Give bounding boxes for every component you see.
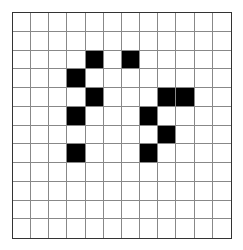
grid-cell (122, 69, 140, 88)
grid-cell (86, 182, 104, 201)
grid-cell-filled (67, 144, 85, 163)
grid-cell (213, 219, 231, 238)
grid-cell (49, 144, 67, 163)
grid-cell (104, 32, 122, 51)
grid-cell (213, 51, 231, 70)
grid-cell (104, 88, 122, 107)
grid-cell (122, 144, 140, 163)
grid-cell (49, 107, 67, 126)
grid-cell (140, 69, 158, 88)
grid-cell (31, 126, 49, 145)
grid-cell (195, 163, 213, 182)
grid-cell-filled (140, 144, 158, 163)
grid-cell (195, 69, 213, 88)
grid-cell (104, 126, 122, 145)
grid-cell (31, 13, 49, 32)
grid-cell (13, 126, 31, 145)
grid-cell (195, 126, 213, 145)
grid-cell (140, 32, 158, 51)
grid-cell (158, 163, 176, 182)
grid-cell-filled (67, 107, 85, 126)
grid-cell (176, 51, 194, 70)
grid-cell (122, 13, 140, 32)
grid-cell (195, 13, 213, 32)
grid-cell (31, 219, 49, 238)
grid-cell (104, 219, 122, 238)
grid-cell (49, 219, 67, 238)
grid-cell (213, 163, 231, 182)
grid-cell (158, 13, 176, 32)
grid-cell (13, 182, 31, 201)
grid-cell (176, 182, 194, 201)
grid-cell-filled (122, 51, 140, 70)
grid-cell (140, 51, 158, 70)
grid-cell (195, 107, 213, 126)
grid-cell (195, 219, 213, 238)
grid-cell (49, 69, 67, 88)
grid-cell (49, 163, 67, 182)
grid-cell (86, 32, 104, 51)
grid-cell (213, 126, 231, 145)
grid-cell (140, 163, 158, 182)
grid-cell (49, 32, 67, 51)
grid-cell (13, 107, 31, 126)
pixel-grid (12, 12, 232, 239)
grid-cell-filled (140, 107, 158, 126)
grid-cell (13, 51, 31, 70)
grid-cell (86, 107, 104, 126)
grid-cell (86, 163, 104, 182)
grid-cell (176, 201, 194, 220)
grid-cell (67, 219, 85, 238)
grid-cell (195, 88, 213, 107)
grid-cell (13, 88, 31, 107)
grid-cell (158, 107, 176, 126)
grid-cell (122, 32, 140, 51)
grid-cell (122, 182, 140, 201)
grid-cell (140, 88, 158, 107)
grid-cell (104, 107, 122, 126)
grid-cell (140, 13, 158, 32)
grid-cell (213, 32, 231, 51)
grid-cell (176, 69, 194, 88)
grid-cell (31, 201, 49, 220)
grid-cell (49, 51, 67, 70)
grid-cell (122, 201, 140, 220)
grid-cell (122, 163, 140, 182)
grid-cell (31, 182, 49, 201)
grid-cell (158, 219, 176, 238)
grid-cell (195, 144, 213, 163)
grid-cell (104, 201, 122, 220)
grid-cell (176, 144, 194, 163)
grid-cell (86, 201, 104, 220)
grid-cell (122, 88, 140, 107)
grid-cell (67, 32, 85, 51)
grid-cell (49, 201, 67, 220)
grid-cell (49, 126, 67, 145)
grid-cell (13, 144, 31, 163)
grid-cell (67, 126, 85, 145)
grid-cell (195, 182, 213, 201)
grid-cell (213, 69, 231, 88)
grid-cell-filled (86, 51, 104, 70)
grid-cell (104, 13, 122, 32)
grid-cell (86, 69, 104, 88)
grid-cell (213, 182, 231, 201)
grid-cell (213, 88, 231, 107)
grid-cell (86, 13, 104, 32)
grid-cell (86, 219, 104, 238)
grid-cell (213, 107, 231, 126)
grid-cell (31, 51, 49, 70)
grid-cell (31, 32, 49, 51)
grid-cell (49, 88, 67, 107)
grid-cell (176, 163, 194, 182)
grid-cell (158, 201, 176, 220)
grid-cell (13, 69, 31, 88)
grid-cell (104, 182, 122, 201)
grid-cell (104, 51, 122, 70)
grid-cell (158, 32, 176, 51)
grid-cell-filled (176, 88, 194, 107)
grid-cell-filled (67, 69, 85, 88)
grid-cell (176, 32, 194, 51)
grid-cell (176, 126, 194, 145)
grid-cell (158, 144, 176, 163)
